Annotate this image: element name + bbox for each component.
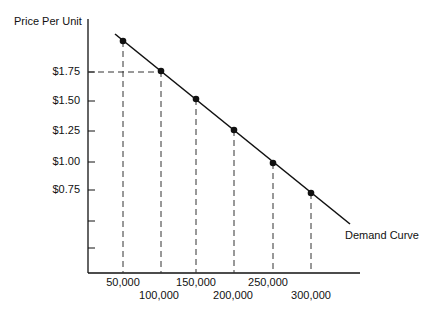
y-axis-label: Price Per Unit bbox=[14, 15, 82, 27]
x-tick-label: 300,000 bbox=[281, 289, 341, 301]
x-tick-label: 150,000 bbox=[166, 276, 226, 288]
x-tick-label: 200,000 bbox=[203, 289, 263, 301]
x-tick-label: 250,000 bbox=[238, 276, 298, 288]
y-tick-label: $1.50 bbox=[20, 94, 80, 106]
y-tick-label: $1.25 bbox=[20, 124, 80, 136]
y-tick-label: $1.75 bbox=[20, 65, 80, 77]
y-tick-label: $1.00 bbox=[20, 155, 80, 167]
curve-label: Demand Curve bbox=[345, 229, 419, 241]
x-tick-label: 50,000 bbox=[93, 276, 153, 288]
drop-lines bbox=[88, 41, 311, 273]
y-ticks bbox=[88, 72, 95, 248]
x-tick-label: 100,000 bbox=[129, 289, 189, 301]
y-tick-label: $0.75 bbox=[20, 183, 80, 195]
